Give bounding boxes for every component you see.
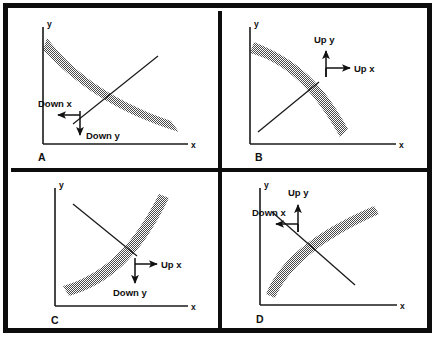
annotation-label: Down x xyxy=(38,98,72,109)
annotation-down-y: Down y xyxy=(80,115,120,141)
panel-d: Up y Down x y x D xyxy=(222,172,429,329)
panel-a: Down x Down y y x A xyxy=(11,11,218,168)
axis-label-y: y xyxy=(59,180,64,190)
annotation-label: Up y xyxy=(288,187,309,198)
annotation-label: Down y xyxy=(113,287,147,298)
scatter-band xyxy=(43,38,179,132)
axis-label-x: x xyxy=(191,140,196,150)
figure-root: Down x Down y y x A xyxy=(0,0,441,340)
panel-c: Up x Down y y x C xyxy=(11,172,218,329)
annotation-up-y: Up y xyxy=(314,34,335,77)
trend-line xyxy=(73,204,137,256)
panel-letter: B xyxy=(255,151,263,163)
annotation-down-x: Down x xyxy=(38,98,80,115)
panel-b: Up y Up x y x B xyxy=(222,11,429,168)
trend-line xyxy=(258,82,319,132)
annotation-label: Up y xyxy=(314,34,335,45)
annotation-up-x: Up x xyxy=(326,63,375,77)
axis-label-x: x xyxy=(400,301,405,311)
panel-letter: C xyxy=(51,314,59,326)
panel-grid: Down x Down y y x A xyxy=(11,11,430,329)
axis-label-x: x xyxy=(399,140,404,150)
panel-letter: A xyxy=(38,151,46,163)
axis-label-x: x xyxy=(191,302,196,312)
scatter-band xyxy=(250,42,348,137)
annotation-label: Up x xyxy=(354,63,375,74)
annotation-label: Up x xyxy=(161,259,182,270)
axis-label-y: y xyxy=(47,19,52,29)
panel-letter: D xyxy=(256,313,264,325)
annotation-up-x: Up x xyxy=(135,258,182,270)
axis-label-y: y xyxy=(254,19,259,29)
scatter-band xyxy=(266,206,379,298)
annotation-label: Down y xyxy=(86,130,120,141)
annotation-label: Down x xyxy=(252,207,286,218)
axis-label-y: y xyxy=(264,180,269,190)
